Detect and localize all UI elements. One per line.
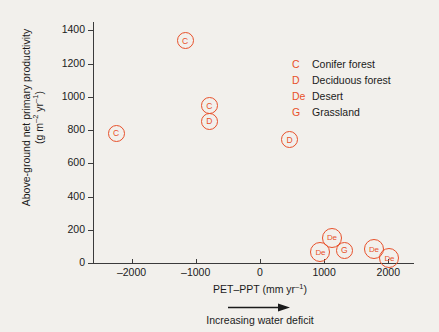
legend-key: C	[292, 58, 312, 70]
y-tick-label: 200	[39, 224, 85, 235]
legend-item-de: DeDesert	[292, 90, 432, 106]
y-tick	[88, 64, 93, 65]
y-axis-title: Above-ground net primary productivity (g…	[20, 23, 45, 213]
legend: CConifer forestDDeciduous forestDeDesert…	[292, 58, 432, 122]
data-point-d: D	[281, 131, 298, 148]
x-tick	[132, 259, 133, 264]
y-tick	[88, 97, 93, 98]
y-tick	[88, 30, 93, 31]
scatter-plot-figure: 0200400600800100012001400 –2000–10000100…	[0, 0, 439, 332]
y-tick	[88, 263, 93, 264]
x-axis-title: PET–PPT (mm yr–1)	[175, 283, 345, 295]
data-point-d: D	[201, 113, 218, 130]
legend-key: De	[292, 90, 312, 102]
x-tick	[196, 259, 197, 264]
x-tick-label: –1000	[166, 266, 226, 278]
y-tick-label: 0	[39, 257, 85, 268]
legend-key: D	[292, 74, 312, 86]
legend-item-c: CConifer forest	[292, 58, 432, 74]
x-tick-label: 0	[230, 266, 290, 278]
y-tick	[88, 163, 93, 164]
data-point-c: C	[108, 125, 125, 142]
y-tick	[88, 197, 93, 198]
x-tick-label: 1000	[294, 266, 354, 278]
y-tick-label: 800	[39, 124, 85, 135]
y-tick-label: 600	[39, 157, 85, 168]
y-tick-label: 1200	[39, 58, 85, 69]
legend-item-g: GGrassland	[292, 106, 432, 122]
y-tick-label: 400	[39, 191, 85, 202]
x-tick	[260, 259, 261, 264]
data-point-c: C	[201, 97, 218, 114]
y-tick-label: 1000	[39, 91, 85, 102]
legend-label: Conifer forest	[312, 58, 375, 70]
legend-label: Desert	[312, 90, 343, 102]
legend-label: Deciduous forest	[312, 74, 391, 86]
y-axis-line	[93, 22, 94, 264]
y-tick	[88, 130, 93, 131]
y-tick	[88, 230, 93, 231]
legend-key: G	[292, 106, 312, 118]
increasing-deficit-arrow-icon	[228, 303, 290, 312]
increasing-deficit-label: Increasing water deficit	[175, 314, 345, 326]
legend-item-d: DDeciduous forest	[292, 74, 432, 90]
data-point-c: C	[177, 32, 194, 49]
x-tick-label: –2000	[102, 266, 162, 278]
data-point-g: G	[336, 242, 353, 259]
x-axis-line	[93, 263, 414, 264]
y-tick-label: 1400	[39, 24, 85, 35]
legend-label: Grassland	[312, 106, 360, 118]
y-axis-title-line2: (g m–2 yr–1)	[32, 91, 44, 144]
